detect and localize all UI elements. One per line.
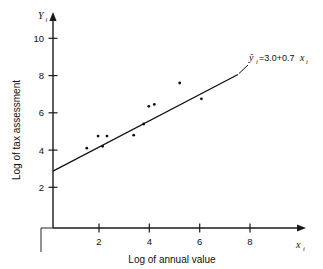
x-axis-arrowhead [297,224,306,231]
y-axis-title: Log of tax assessment [11,80,22,180]
y-tick-labels: 10 8 6 4 2 [33,33,44,193]
data-point [101,145,104,148]
x-tick-label-8: 8 [247,236,252,247]
y-tick-label-4: 4 [39,145,44,156]
plot-frame [41,228,53,252]
equation-x-subscript: i [306,58,308,65]
y-tick-label-6: 6 [39,107,44,118]
data-point [85,147,88,150]
regression-equation-annotation: ŷ i =3.0+0.7 x i [248,52,308,65]
y-axis-symbol-subscript: i [46,16,48,23]
y-axis [49,12,56,228]
x-axis-title: Log of annual value [128,254,216,265]
x-axis [53,224,306,231]
x-tick-labels: 2 4 6 8 [96,236,252,247]
data-point [106,135,109,138]
equation-body: =3.0+0.7 [259,53,295,63]
equation-leader-line [239,65,248,74]
data-point [142,123,145,126]
x-tick-label-6: 6 [197,236,202,247]
equation-x-symbol: x [299,52,305,63]
y-tick-label-2: 2 [39,182,44,193]
x-axis-symbol-letter: x [295,239,301,250]
x-axis-symbol: x i [295,239,305,252]
data-point [178,82,181,85]
data-point [132,134,135,137]
plot-canvas: 10 8 6 4 2 2 4 6 8 Y i x i [0,0,323,269]
scatter-plot-figure: 10 8 6 4 2 2 4 6 8 Y i x i [0,0,323,269]
y-tick-label-10: 10 [33,33,44,44]
data-point [200,97,203,100]
equation-yhat-subscript: i [256,58,258,65]
y-axis-arrowhead [49,12,56,21]
y-tick-label-8: 8 [39,70,44,81]
data-points-group [85,82,202,150]
data-point [153,103,156,106]
x-tick-label-2: 2 [96,236,101,247]
y-axis-symbol: Y i [38,10,48,23]
y-axis-symbol-letter: Y [38,10,45,21]
equation-yhat-symbol: ŷ [248,52,254,63]
x-tick-label-4: 4 [147,236,152,247]
regression-fit-line [53,75,238,172]
data-point [97,135,100,138]
data-point [147,105,150,108]
x-axis-symbol-subscript: i [303,245,305,252]
